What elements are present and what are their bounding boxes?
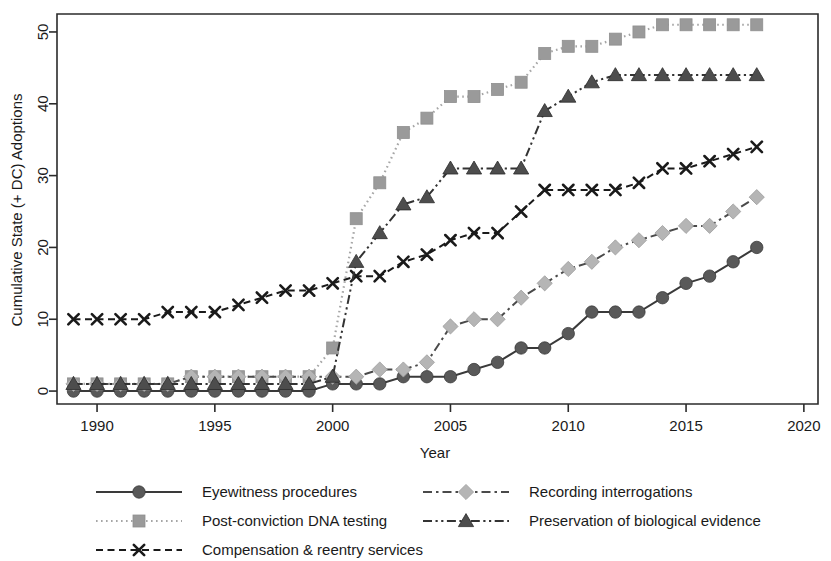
x-tick-label: 2005 — [434, 417, 467, 434]
data-point-circle — [703, 270, 715, 282]
data-point-circle — [515, 342, 527, 354]
data-point-diamond — [584, 254, 599, 269]
legend-sample-marker-dna_testing — [133, 515, 145, 527]
data-point-diamond — [702, 218, 717, 233]
data-point-circle — [374, 378, 386, 390]
data-point-circle — [421, 371, 433, 383]
y-tick-label: 50 — [35, 24, 52, 41]
series-line-dna_testing — [73, 25, 756, 384]
chart-legend: Eyewitness proceduresPost-conviction DNA… — [96, 483, 761, 558]
series-line-eyewitness — [73, 247, 756, 391]
data-point-x — [445, 235, 455, 245]
legend-entry-eyewitness[interactable]: Eyewitness procedures — [96, 483, 357, 500]
data-point-circle — [538, 342, 550, 354]
data-point-square — [468, 91, 480, 103]
x-tick-label: 2000 — [316, 417, 349, 434]
series-line-compensation — [73, 147, 756, 319]
legend-label-dna_testing: Post-conviction DNA testing — [202, 512, 387, 529]
data-point-square — [562, 40, 574, 52]
data-point-circle — [727, 256, 739, 268]
y-tick-label: 40 — [35, 95, 52, 112]
x-tick-label: 2010 — [552, 417, 585, 434]
data-point-diamond — [466, 312, 481, 327]
data-point-square — [492, 83, 504, 95]
data-point-x — [233, 300, 243, 310]
chart-figure: Cumulative State (+ DC) Adoptions Year 1… — [0, 0, 831, 561]
y-axis-ticks: 01020304050 — [35, 24, 58, 396]
y-tick-label: 10 — [35, 311, 52, 328]
data-point-square — [539, 48, 551, 60]
data-point-circle — [633, 306, 645, 318]
legend-entry-dna_testing[interactable]: Post-conviction DNA testing — [96, 512, 387, 529]
data-point-circle — [609, 306, 621, 318]
data-point-triangle — [443, 161, 458, 174]
data-point-circle — [586, 306, 598, 318]
legend-label-compensation: Compensation & reentry services — [202, 541, 423, 558]
legend-entry-recording[interactable]: Recording interrogations — [423, 483, 692, 500]
data-point-x — [657, 163, 667, 173]
data-point-x — [375, 271, 385, 281]
legend-entry-preservation[interactable]: Preservation of biological evidence — [423, 512, 761, 529]
data-point-x — [139, 314, 149, 324]
data-point-diamond — [678, 218, 693, 233]
data-point-x — [398, 257, 408, 267]
data-point-x — [752, 142, 762, 152]
legend-entry-compensation[interactable]: Compensation & reentry services — [96, 541, 423, 558]
data-point-square — [515, 76, 527, 88]
data-point-diamond — [419, 355, 434, 370]
data-point-circle — [680, 277, 692, 289]
data-point-square — [751, 19, 763, 31]
data-point-square — [609, 33, 621, 45]
data-point-circle — [656, 292, 668, 304]
x-tick-label: 1995 — [198, 417, 231, 434]
data-point-triangle — [561, 89, 576, 102]
data-point-square — [657, 19, 669, 31]
data-point-square — [444, 91, 456, 103]
legend-sample-marker-eyewitness — [133, 486, 145, 498]
data-point-triangle — [372, 226, 387, 239]
data-point-x — [257, 293, 267, 303]
y-tick-label: 0 — [35, 387, 52, 395]
data-point-circle — [444, 371, 456, 383]
data-point-circle — [468, 363, 480, 375]
series-line-preservation — [73, 75, 756, 384]
data-point-diamond — [443, 319, 458, 334]
data-point-square — [727, 19, 739, 31]
x-tick-label: 1990 — [80, 417, 113, 434]
data-point-circle — [751, 241, 763, 253]
data-point-diamond — [561, 261, 576, 276]
data-point-x — [610, 185, 620, 195]
cumulative-adoptions-line-chart: Cumulative State (+ DC) Adoptions Year 1… — [0, 0, 831, 561]
data-point-x — [728, 149, 738, 159]
y-axis-title: Cumulative State (+ DC) Adoptions — [8, 93, 25, 326]
data-point-diamond — [537, 276, 552, 291]
data-point-x — [516, 206, 526, 216]
data-point-square — [374, 177, 386, 189]
y-tick-label: 30 — [35, 167, 52, 184]
x-tick-label: 2020 — [787, 417, 820, 434]
series-layer — [66, 19, 764, 397]
data-point-x — [634, 178, 644, 188]
data-point-square — [421, 112, 433, 124]
data-point-x — [422, 249, 432, 259]
data-point-diamond — [655, 225, 670, 240]
data-point-circle — [491, 356, 503, 368]
y-tick-label: 20 — [35, 239, 52, 256]
legend-label-preservation: Preservation of biological evidence — [529, 512, 761, 529]
data-point-diamond — [608, 240, 623, 255]
legend-label-eyewitness: Eyewitness procedures — [202, 483, 357, 500]
data-point-square — [350, 213, 362, 225]
x-tick-label: 2015 — [669, 417, 702, 434]
data-point-square — [327, 342, 339, 354]
series-line-recording — [73, 197, 756, 384]
data-point-diamond — [726, 204, 741, 219]
data-point-square — [633, 26, 645, 38]
data-point-square — [397, 127, 409, 139]
legend-sample-marker-recording — [458, 484, 473, 499]
data-point-circle — [562, 327, 574, 339]
data-point-square — [704, 19, 716, 31]
data-point-square — [586, 40, 598, 52]
data-point-diamond — [749, 190, 764, 205]
legend-label-recording: Recording interrogations — [529, 483, 692, 500]
data-point-diamond — [631, 233, 646, 248]
